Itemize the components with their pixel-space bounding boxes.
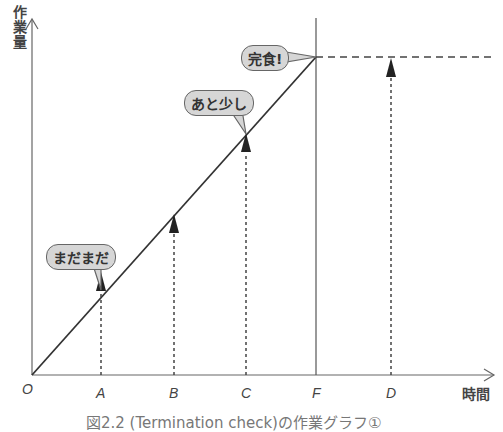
bubble-tail-done xyxy=(286,52,316,62)
tick-label-C: C xyxy=(241,385,251,401)
tick-label-B: B xyxy=(169,385,178,401)
x-axis-label: 時間 xyxy=(462,383,490,403)
arrow-C xyxy=(241,133,251,375)
arrow-D xyxy=(386,58,396,375)
tick-label-F: F xyxy=(312,385,321,401)
origin-label: O xyxy=(22,381,33,397)
tick-label-D: D xyxy=(386,385,396,401)
y-axis-label: 作業量 xyxy=(10,5,26,50)
arrow-B xyxy=(169,214,179,375)
tick-label-A: A xyxy=(96,385,105,401)
bubble-near: あと少し xyxy=(184,90,254,116)
figure-caption: 図2.2 (Termination check)の作業グラフ① xyxy=(86,411,381,432)
bubble-done: 完食! xyxy=(241,45,289,71)
bubble-early: まだまだ xyxy=(46,244,116,270)
